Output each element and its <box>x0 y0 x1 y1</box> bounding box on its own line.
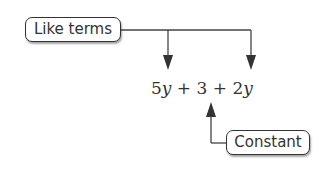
op-plus-1: + <box>177 78 191 98</box>
term-3: 3 <box>197 78 208 98</box>
term-5-var: y <box>162 78 172 98</box>
arrow-to-2y-icon <box>246 55 256 70</box>
term-5: 5 <box>151 78 162 98</box>
op-plus-2: + <box>213 78 227 98</box>
arrow-to-3-icon <box>206 102 216 117</box>
term-2-var: y <box>243 78 253 98</box>
constant-label: Constant <box>226 130 310 155</box>
diagram: Like terms 5y + 3 + 2y Constant <box>0 0 333 170</box>
like-terms-label: Like terms <box>25 17 121 42</box>
expression: 5y + 3 + 2y <box>151 78 253 98</box>
term-2: 2 <box>232 78 243 98</box>
arrow-to-5y-icon <box>163 55 173 70</box>
